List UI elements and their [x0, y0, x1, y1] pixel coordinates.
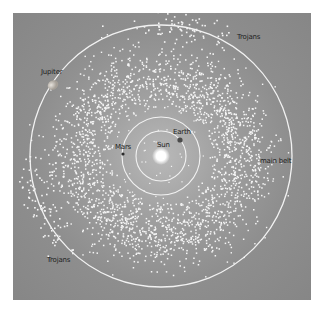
jupiter-label: Jupiter	[41, 68, 62, 76]
trojans-leading-label: Trojans	[237, 33, 260, 41]
mars-label: Mars	[115, 143, 131, 151]
mars-icon	[121, 152, 124, 155]
earth-label: Earth	[173, 128, 191, 136]
main-belt-label: main belt	[260, 157, 291, 165]
trojans-trailing-label: Trojans	[47, 256, 70, 264]
diagram-frame: Jupiter Trojans Trojans Sun Earth Mars m…	[13, 13, 311, 300]
trojans-trailing-asteroids	[19, 156, 74, 257]
earth-icon	[177, 137, 182, 142]
sun-label: Sun	[157, 141, 170, 149]
sun-core	[156, 151, 166, 161]
